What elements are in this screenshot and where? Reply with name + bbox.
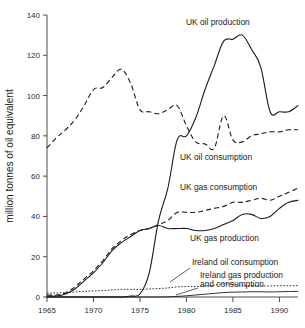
annotation-label: and consumption: [200, 279, 264, 289]
y-tick-label: 80: [31, 132, 40, 141]
annotation-label: UK gas consumption: [180, 182, 258, 192]
x-tick-label: 1965: [38, 306, 56, 315]
y-tick-label: 100: [27, 92, 41, 101]
y-tick-label: 140: [27, 11, 41, 20]
x-tick-label: 1970: [85, 306, 103, 315]
x-tick-label: 1975: [131, 306, 149, 315]
y-tick-label: 120: [27, 51, 41, 60]
annotation-label: UK oil production: [186, 17, 250, 27]
y-axis-title: million tonnes of oil equivalent: [4, 89, 15, 223]
y-tick-label: 20: [31, 253, 40, 262]
annotation-label: Ireland oil consumption: [192, 257, 278, 267]
x-tick-label: 1980: [178, 306, 196, 315]
annotation-label: UK gas production: [190, 233, 259, 243]
line-chart: 020406080100120140 196519701975198019851…: [0, 0, 305, 328]
chart-container: 020406080100120140 196519701975198019851…: [0, 0, 305, 328]
y-tick-label: 60: [31, 172, 40, 181]
x-tick-label: 1990: [271, 306, 289, 315]
y-tick-label: 40: [31, 212, 40, 221]
annotation-label: UK oil consumption: [180, 152, 252, 162]
y-tick-label: 0: [36, 293, 41, 302]
x-tick-label: 1985: [224, 306, 242, 315]
